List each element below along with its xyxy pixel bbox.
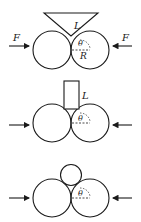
label-force-left: F <box>12 32 21 43</box>
figure-block <box>9 81 132 142</box>
figure-wedge <box>9 13 132 69</box>
left-cylinder <box>33 104 71 142</box>
label-length: L <box>73 20 81 31</box>
left-cylinder <box>33 31 71 69</box>
block-rectangle <box>64 81 79 109</box>
label-angle: θ <box>78 114 83 123</box>
left-cylinder <box>33 179 71 217</box>
label-angle: θ <box>78 39 83 48</box>
small-cylinder <box>61 165 82 186</box>
label-radius: R <box>79 51 87 61</box>
wedge-triangle <box>44 13 98 36</box>
diagram-canvas: F F L θ R L θ θ <box>0 0 141 222</box>
label-force-right: F <box>121 32 130 43</box>
label-angle: θ <box>78 189 83 198</box>
figure-small-cylinder <box>9 165 132 218</box>
label-length: L <box>81 90 89 101</box>
